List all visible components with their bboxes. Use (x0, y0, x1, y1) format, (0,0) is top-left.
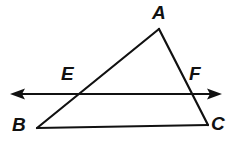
segment-bc (37, 125, 208, 128)
vertex-label-a: A (152, 3, 166, 22)
segment-ab (37, 29, 159, 128)
vertex-label-b: B (12, 115, 26, 134)
vertex-label-c: C (211, 114, 225, 133)
geometry-figure: A B C E F (0, 0, 248, 141)
point-label-e: E (61, 64, 74, 83)
point-label-f: F (189, 64, 201, 83)
